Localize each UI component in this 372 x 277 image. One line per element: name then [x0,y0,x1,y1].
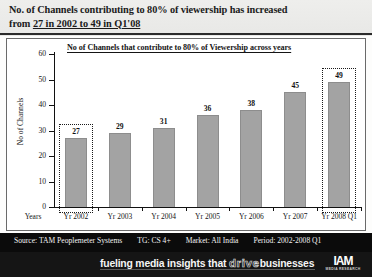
highlight-box [322,68,356,213]
header-line-2: from 27 in 2002 to 49 in Q1'08 [9,17,364,31]
bar-value-label: 29 [106,122,134,131]
tagline-pre: fueling media insights that [100,258,229,269]
market-label: Market: All India [186,236,239,245]
y-tick-label: 30 [27,126,46,135]
x-tick [273,207,274,211]
source-label: Source: TAM Peoplemeter Systems [14,236,122,245]
x-tick [317,207,318,211]
y-tick [49,156,55,157]
y-tick-label: 60 [27,49,46,58]
tagline: fueling media insights that drivebusines… [100,256,314,269]
iam-logo: IAM MEDIA RESEARCH [322,255,364,272]
header-line-1: No. of Channels contributing to 80% of v… [9,3,364,17]
x-tick-label: Yr 2008 Q1 [317,212,361,221]
bar-value-label: 31 [150,117,178,126]
y-tick-label: 40 [27,100,46,109]
bar [153,128,175,207]
y-tick-label: 50 [27,75,46,84]
logo-wordmark: IAM [322,255,364,267]
x-axis-title: Years [15,212,51,221]
slide-header: No. of Channels contributing to 80% of v… [0,0,372,36]
y-tick [49,105,55,106]
y-tick-label: 10 [27,177,46,186]
y-tick [49,131,55,132]
tagline-hollow-word: drive [229,256,260,269]
tagline-post: businesses [260,258,315,269]
x-tick-label: Yr 2006 [229,212,273,221]
x-tick [98,207,99,211]
bar-value-label: 38 [237,99,265,108]
header-divider [0,33,372,36]
target-group-label: TG: CS 4+ [137,236,170,245]
source-text: Source: TAM Peoplemeter SystemsTG: CS 4+… [14,236,336,245]
logo-subtitle: MEDIA RESEARCH [322,267,364,272]
x-tick [186,207,187,211]
highlight-box [59,124,93,213]
bar [284,92,306,207]
tagline-underline [100,269,315,270]
x-tick-label: Yr 2005 [186,212,230,221]
bar [240,110,262,207]
header-line-2-underlined: 27 in 2002 to 49 in Q1'08 [33,18,140,29]
x-tick-label: Yr 2007 [273,212,317,221]
y-tick-label: 0 [27,202,46,211]
chart-panel: No of Channels that contribute to 80% of… [6,38,366,231]
bar [197,115,219,207]
y-axis-title: No of Channels [16,67,25,177]
slide-root: No. of Channels contributing to 80% of v… [0,0,372,277]
bar-value-label: 45 [281,81,309,90]
y-tick [49,207,55,208]
y-tick [49,182,55,183]
header-line-2-prefix: from [9,18,33,29]
x-axis-line [54,207,361,208]
x-tick [142,207,143,211]
x-tick-label: Yr 2004 [142,212,186,221]
y-tick [49,80,55,81]
x-tick-label: Yr 2002 [54,212,98,221]
x-tick [361,207,362,211]
period-label: Period: 2002-2008 Q1 [253,236,321,245]
bar [109,133,131,207]
x-tick [229,207,230,211]
chart-title: No of Channels that contribute to 80% of… [67,43,291,52]
y-tick [49,54,55,55]
x-tick-label: Yr 2003 [98,212,142,221]
y-tick-label: 20 [27,151,46,160]
bar-value-label: 36 [194,104,222,113]
